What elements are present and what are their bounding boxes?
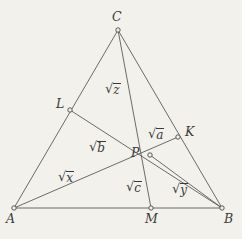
region-label-sqrt-c: √c [126, 180, 142, 193]
vertex-point-L [68, 108, 72, 112]
vertex-point-M [149, 206, 153, 210]
point-label-A: A [6, 213, 15, 226]
vertex-point-C [116, 28, 120, 32]
point-label-K: K [185, 126, 194, 139]
segment-LB [70, 110, 222, 208]
region-label-sqrt-x: √x [58, 170, 74, 183]
radicand-a: a [156, 128, 165, 141]
vertex-point-B [220, 206, 224, 210]
radicand-y: y [180, 183, 188, 196]
figure-canvas [0, 0, 242, 239]
radicand-x: x [66, 171, 74, 184]
point-label-L: L [56, 98, 64, 111]
radicand-b: b [97, 141, 106, 154]
radicand-c: c [134, 181, 142, 194]
region-label-sqrt-b: √b [89, 140, 106, 153]
point-label-C: C [112, 11, 122, 24]
region-label-sqrt-y: √y [172, 182, 188, 195]
vertex-point-A [12, 206, 16, 210]
region-label-sqrt-a: √a [148, 127, 164, 140]
point-label-P: P [131, 147, 139, 160]
radicand-z: z [113, 83, 121, 96]
vertex-point-P [148, 153, 152, 157]
point-label-B: B [224, 213, 233, 226]
vertex-point-K [176, 135, 180, 139]
geometry-figure: C L K P A M B √z √b √a √x √c √y [0, 0, 242, 239]
region-label-sqrt-z: √z [105, 82, 121, 95]
point-label-M: M [145, 213, 158, 226]
